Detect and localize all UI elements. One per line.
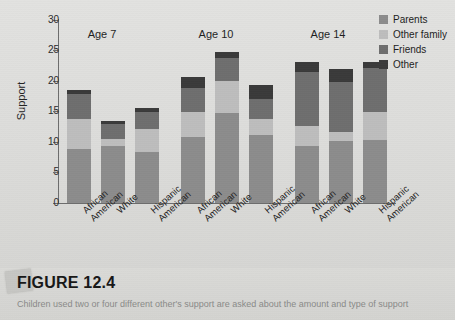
bar-segment-other-family xyxy=(249,119,273,135)
legend-item-parents: Parents xyxy=(379,14,453,25)
bar-segment-friends xyxy=(67,94,91,119)
bar-3 xyxy=(135,108,159,203)
bar-5 xyxy=(215,52,239,203)
y-tick-label-15: 15 xyxy=(29,106,59,116)
bar-segment-other-family xyxy=(295,126,319,146)
bar-segment-friends xyxy=(249,99,273,119)
figure-caption-text: Children used two or four different othe… xyxy=(17,299,447,310)
figure-caption-block: FIGURE 12.4 Children used two or four di… xyxy=(0,268,455,320)
legend-item-friends: Friends xyxy=(379,44,453,55)
legend-label-friends: Friends xyxy=(393,44,426,55)
legend-label-parents: Parents xyxy=(393,14,427,25)
bar-1 xyxy=(67,90,91,203)
bar-segment-friends xyxy=(215,58,239,81)
legend-label-other_family: Other family xyxy=(393,29,447,40)
bar-segment-friends xyxy=(295,72,319,126)
bar-segment-other xyxy=(181,77,205,88)
legend-swatch-other_family xyxy=(379,30,388,39)
figure-page: Age 7 Age 10 Age 14 0 5 10 15 20 25 30 S… xyxy=(0,0,455,320)
chart-legend: ParentsOther familyFriendsOther xyxy=(379,14,453,74)
bar-segment-other xyxy=(329,69,353,82)
bar-9 xyxy=(363,62,387,203)
bar-segment-other-family xyxy=(135,129,159,152)
bar-segment-friends xyxy=(135,112,159,128)
bar-segment-other xyxy=(295,62,319,72)
legend-swatch-parents xyxy=(379,15,388,24)
bar-segment-parents xyxy=(249,135,273,203)
y-tick-label-25: 25 xyxy=(29,45,59,55)
bar-segment-friends xyxy=(363,68,387,112)
bar-4 xyxy=(181,77,205,203)
y-tick-label-5: 5 xyxy=(29,167,59,177)
bar-segment-parents xyxy=(363,140,387,203)
y-axis-ticks: 0 5 10 15 20 25 30 xyxy=(0,0,59,230)
legend-swatch-other xyxy=(379,60,388,69)
bar-6 xyxy=(249,85,273,203)
bar-segment-other-family xyxy=(329,132,353,142)
legend-swatch-friends xyxy=(379,45,388,54)
bar-segment-other-family xyxy=(215,81,239,113)
bar-segment-friends xyxy=(101,124,125,139)
bar-segment-other-family xyxy=(67,119,91,149)
bar-segment-other-family xyxy=(363,112,387,139)
bar-segment-parents xyxy=(135,152,159,203)
bar-segment-parents xyxy=(67,149,91,203)
figure-number-label: FIGURE 12.4 xyxy=(17,274,115,292)
y-tick-label-20: 20 xyxy=(29,76,59,86)
bar-segment-other-family xyxy=(181,112,205,136)
plot-area xyxy=(59,20,395,203)
y-tick-label-10: 10 xyxy=(29,137,59,147)
bar-segment-friends xyxy=(181,88,205,112)
legend-item-other: Other xyxy=(379,59,453,70)
bar-segment-other xyxy=(249,85,273,98)
chart-figure-panel: Age 7 Age 10 Age 14 0 5 10 15 20 25 30 S… xyxy=(0,0,455,268)
legend-item-other_family: Other family xyxy=(379,29,453,40)
bar-segment-friends xyxy=(329,82,353,132)
legend-label-other: Other xyxy=(393,59,418,70)
y-tick-label-0: 0 xyxy=(29,198,59,208)
bar-segment-other-family xyxy=(101,139,125,146)
y-axis-title: Support xyxy=(15,56,27,146)
bar-7 xyxy=(295,62,319,203)
y-tick-label-30: 30 xyxy=(29,15,59,25)
